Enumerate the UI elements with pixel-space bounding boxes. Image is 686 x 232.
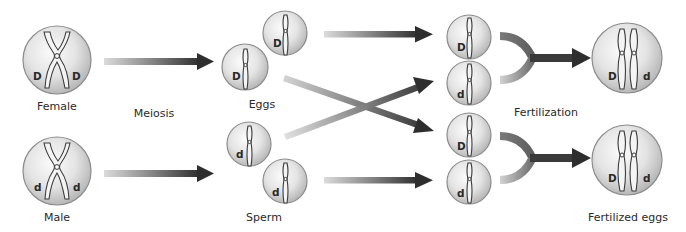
sperm-to-pair-arrow-bottom — [324, 172, 433, 189]
female-label: Female — [37, 100, 77, 113]
egg-cell-2: D — [222, 44, 268, 90]
pair-2-allele: d — [457, 88, 465, 100]
male-allele-left: d — [34, 181, 42, 193]
eggs-label: Eggs — [249, 98, 276, 111]
fertilized-egg-2-allele-left: D — [608, 172, 617, 184]
fertilization-label: Fertilization — [514, 106, 578, 119]
pair-cell-1: D — [447, 15, 491, 59]
fertilization-arrow-top — [500, 36, 591, 80]
sperm-cell-2: d — [263, 159, 307, 203]
pair-cell-3: D — [447, 113, 491, 157]
pair-3-allele: D — [457, 140, 466, 152]
female-allele-left: D — [33, 70, 42, 82]
fertilized-egg-2-allele-right: d — [643, 172, 651, 184]
sperm-label: Sperm — [246, 211, 282, 224]
female-allele-right: D — [72, 70, 81, 82]
meiosis-fertilization-diagram: D D Female d d Male Meiosis D D Eggs — [0, 0, 686, 232]
pair-1-allele: D — [457, 41, 466, 53]
female-cell: D D — [23, 26, 91, 94]
pair-cell-4: d — [447, 160, 491, 204]
fertilized-egg-1: D d — [592, 23, 662, 93]
fertilized-egg-2: D d — [592, 125, 662, 195]
meiosis-arrow-male — [104, 165, 214, 182]
male-allele-right: d — [73, 181, 81, 193]
egg-to-pair-arrow-top — [324, 26, 433, 43]
fertilized-egg-1-allele-left: D — [608, 70, 617, 82]
fertilized-egg-1-allele-right: d — [643, 70, 651, 82]
pair-4-allele: d — [457, 187, 465, 199]
sperm-cell-1: d — [227, 122, 271, 166]
male-label: Male — [44, 211, 70, 224]
egg-1-allele: D — [273, 37, 282, 49]
sperm-2-allele: d — [272, 186, 280, 198]
sperm-1-allele: d — [236, 148, 244, 160]
pair-cell-2: d — [447, 61, 491, 105]
male-cell: d d — [23, 137, 91, 205]
meiosis-arrow-female — [104, 53, 214, 70]
egg-2-allele: D — [232, 70, 241, 82]
meiosis-label: Meiosis — [134, 107, 175, 120]
fertilized-eggs-label: Fertilized eggs — [588, 211, 668, 224]
egg-cell-1: D — [263, 11, 307, 55]
fertilization-arrow-bottom — [500, 136, 591, 180]
